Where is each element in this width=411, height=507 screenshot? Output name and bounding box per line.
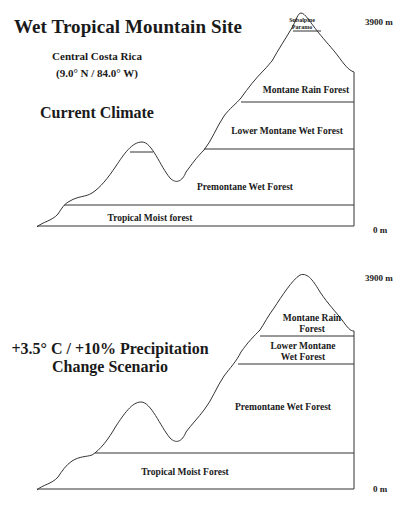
zone-label-paramo-1: Subalpine xyxy=(282,17,322,24)
elevation-top-current: 3900 m xyxy=(365,17,393,27)
location-name: Central Costa Rica xyxy=(22,50,172,62)
zone-label-tropical: Tropical Moist forest xyxy=(85,213,215,224)
panel-heading-scenario-1: +3.5° C / +10% Precipitation xyxy=(10,340,210,358)
zone-label-tropical-s: Tropical Moist Forest xyxy=(120,467,250,478)
zone-label-lower-montane: Lower Montane Wet Forest xyxy=(220,126,354,137)
zone-label-lower-montane-s-2: Wet Forest xyxy=(258,352,348,363)
zone-label-premontane-s: Premontane Wet Forest xyxy=(218,402,348,413)
panel-heading-scenario-2: Change Scenario xyxy=(10,358,210,376)
zone-label-lower-montane-s-1: Lower Montane xyxy=(258,341,348,352)
panel-heading-current: Current Climate xyxy=(22,104,172,122)
zone-label-montane-s-2: Forest xyxy=(274,324,350,335)
zone-label-premontane: Premontane Wet Forest xyxy=(180,182,310,193)
zone-label-montane: Montane Rain Forest xyxy=(258,85,354,96)
zone-label-montane-s-1: Montane Rain xyxy=(274,313,350,324)
mountain-outline-scenario xyxy=(37,274,354,490)
figure-title: Wet Tropical Mountain Site xyxy=(14,16,242,38)
zone-label-paramo-2: Paramo xyxy=(282,24,322,31)
location-coords: (9.0° N / 84.0° W) xyxy=(22,67,172,79)
elevation-top-scenario: 3900 m xyxy=(365,273,393,283)
elevation-base-scenario: 0 m xyxy=(373,484,387,494)
elevation-base-current: 0 m xyxy=(373,225,387,235)
